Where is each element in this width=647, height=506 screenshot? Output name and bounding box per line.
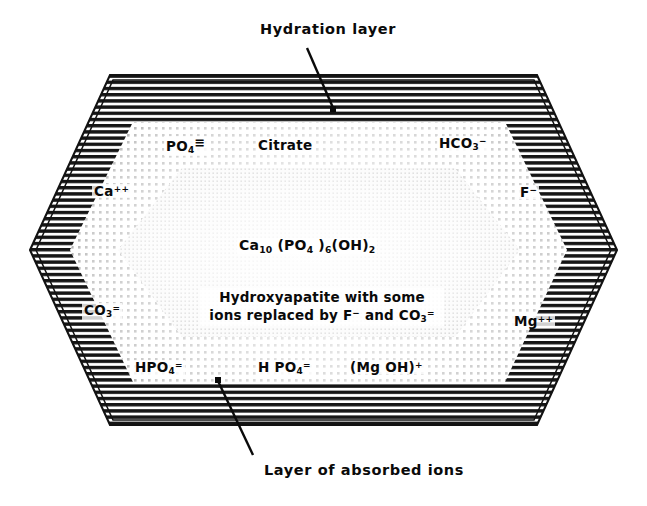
formula-sub-1: 10 <box>259 244 272 255</box>
ion-bicarbonate-charge: − <box>479 136 487 146</box>
ion-dihydrogen-phosphate-charge: = <box>303 360 311 370</box>
ion-magnesium-base: Mg <box>514 313 538 329</box>
ion-phosphate-charge: ≡ <box>194 135 204 150</box>
core-description-line-2-b: and CO <box>360 307 421 323</box>
core-description-line-2: ions replaced by F− and CO3= <box>202 306 442 326</box>
formula-sub-4: 2 <box>369 244 376 255</box>
absorbed-ions-caption: Layer of absorbed ions <box>262 463 466 478</box>
ion-fluoride-base: F <box>520 184 530 200</box>
hydroxyapatite-crystal-figure: Hydration layer Layer of absorbed ions P… <box>0 0 647 506</box>
core-description: Hydroxyapatite with some ions replaced b… <box>200 288 444 326</box>
ion-magnesium-hydroxide-charge: + <box>415 360 423 370</box>
ion-calcium-charge: ++ <box>114 184 130 194</box>
ion-hydrogen-phosphate-base: HPO <box>135 359 169 375</box>
ion-magnesium-hydroxide-base: (Mg OH) <box>350 359 415 375</box>
ion-dihydrogen-phosphate-bottom: H PO4= <box>256 360 313 377</box>
ion-fluoride-charge: − <box>530 185 538 195</box>
formula-mid-1: (PO <box>272 237 306 253</box>
formula-mid-2: ) <box>313 237 325 253</box>
ion-citrate-base: Citrate <box>258 137 312 153</box>
core-description-fluoride-charge: − <box>352 308 360 318</box>
ion-magnesium-charge: ++ <box>538 314 554 324</box>
core-chemical-formula: Ca10 (PO4 )6(OH)2 <box>237 238 377 254</box>
core-description-carbonate-charge: = <box>427 308 435 318</box>
ion-phosphate-base: PO <box>166 138 188 154</box>
ion-hydrogen-phosphate-bottom: HPO4= <box>133 360 185 377</box>
ion-bicarbonate-base: HCO <box>439 135 473 151</box>
ion-carbonate-charge: = <box>112 303 120 313</box>
ion-carbonate-left: CO3= <box>82 303 122 320</box>
ion-calcium-base: Ca <box>94 183 114 199</box>
ion-bicarbonate-top: HCO3− <box>437 136 489 153</box>
formula-element: Ca <box>239 237 259 253</box>
ion-carbonate-base: CO <box>84 302 106 318</box>
formula-sub-3: 6 <box>325 244 332 255</box>
core-description-line-2-a: ions replaced by F <box>209 307 352 323</box>
ion-dihydrogen-phosphate-base: H PO <box>258 359 297 375</box>
ion-fluoride-right: F− <box>518 185 539 199</box>
ion-hydrogen-phosphate-charge: = <box>175 360 183 370</box>
hydration-layer-caption: Hydration layer <box>258 22 398 37</box>
ion-calcium-left: Ca++ <box>92 184 131 198</box>
core-description-line-1: Hydroxyapatite with some <box>202 288 442 306</box>
ion-phosphate-top: PO4≡ <box>164 136 207 156</box>
ion-magnesium-hydroxide-bottom: (Mg OH)+ <box>348 360 425 374</box>
ion-magnesium-right: Mg++ <box>512 314 555 328</box>
ion-citrate-top: Citrate <box>256 138 314 152</box>
formula-mid-3: (OH) <box>332 237 369 253</box>
